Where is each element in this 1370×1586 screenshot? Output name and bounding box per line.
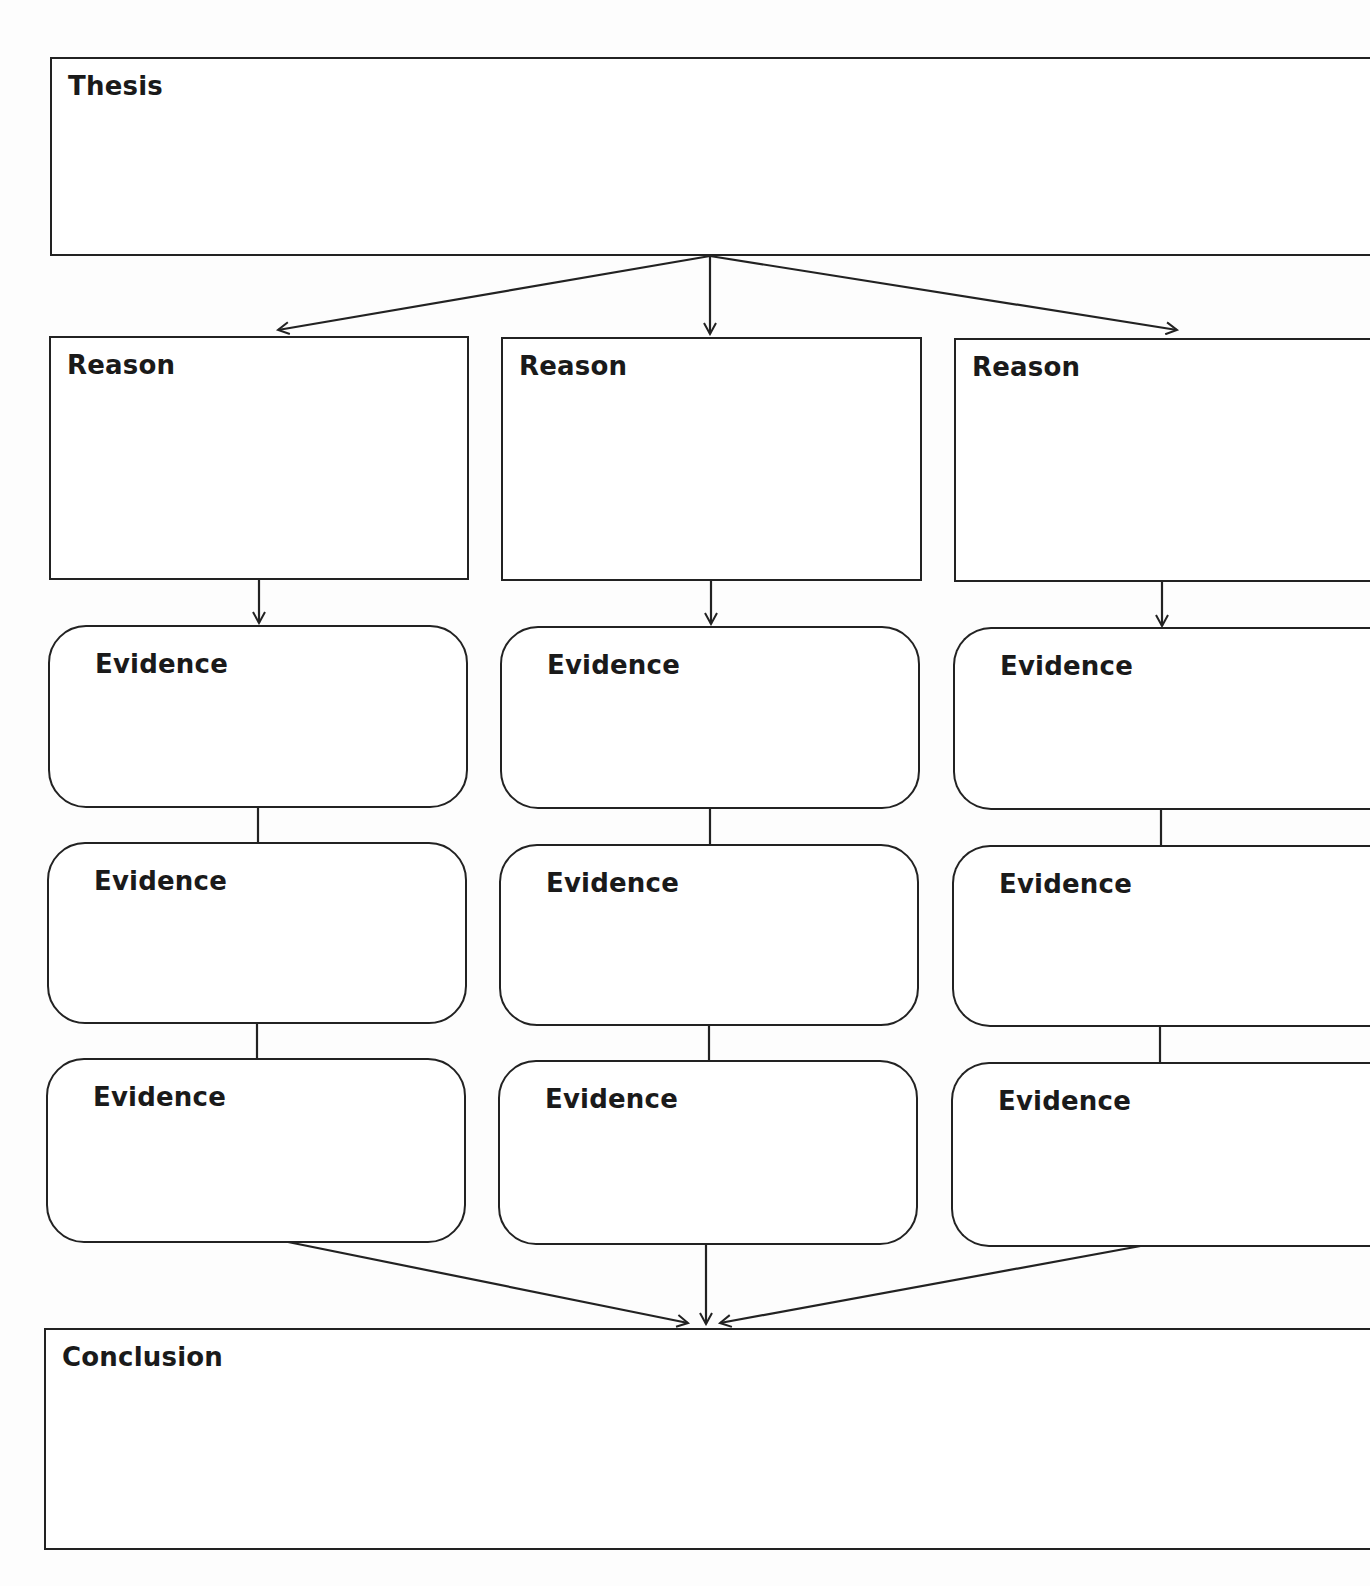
evidence-label: Evidence xyxy=(93,1082,226,1112)
evidence-label: Evidence xyxy=(94,866,227,896)
reason-box-1[interactable]: Reason xyxy=(49,336,469,580)
evidence-box-3-3[interactable]: Evidence xyxy=(951,1062,1370,1247)
thesis-label: Thesis xyxy=(68,71,163,101)
evidence-box-2-2[interactable]: Evidence xyxy=(499,844,919,1026)
evidence-label: Evidence xyxy=(545,1084,678,1114)
evidence-label: Evidence xyxy=(998,1086,1131,1116)
evidence-label: Evidence xyxy=(95,649,228,679)
conclusion-label: Conclusion xyxy=(62,1342,223,1372)
evidence-box-3-1[interactable]: Evidence xyxy=(953,627,1370,810)
evidence-label: Evidence xyxy=(1000,651,1133,681)
evidence-box-1-2[interactable]: Evidence xyxy=(47,842,467,1024)
evidence-box-1-3[interactable]: Evidence xyxy=(46,1058,466,1243)
evidence-box-2-1[interactable]: Evidence xyxy=(500,626,920,809)
reason-label: Reason xyxy=(972,352,1080,382)
evidence-box-1-1[interactable]: Evidence xyxy=(48,625,468,808)
reason-box-2[interactable]: Reason xyxy=(501,337,922,581)
reason-label: Reason xyxy=(519,351,627,381)
reason-label: Reason xyxy=(67,350,175,380)
evidence-label: Evidence xyxy=(546,868,679,898)
reason-box-3[interactable]: Reason xyxy=(954,338,1370,582)
evidence-box-2-3[interactable]: Evidence xyxy=(498,1060,918,1245)
thesis-box[interactable]: Thesis xyxy=(50,57,1370,256)
conclusion-box[interactable]: Conclusion xyxy=(44,1328,1370,1550)
evidence-label: Evidence xyxy=(547,650,680,680)
evidence-label: Evidence xyxy=(999,869,1132,899)
evidence-box-3-2[interactable]: Evidence xyxy=(952,845,1370,1027)
